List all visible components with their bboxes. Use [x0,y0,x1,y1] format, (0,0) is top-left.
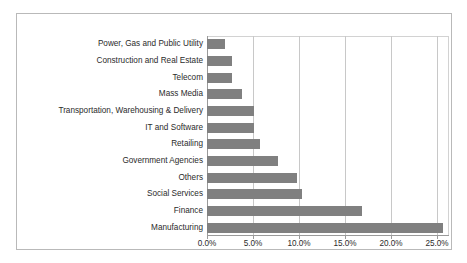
bar-row [207,136,449,153]
bar-row [207,53,449,70]
bar [207,173,297,183]
x-tick-label: 5.0% [244,239,263,248]
bar [207,206,362,216]
category-label: Mass Media [23,89,203,99]
bar [207,123,254,133]
x-tick-label: 25.0% [425,239,448,248]
category-label: Manufacturing [23,223,203,233]
category-label: Government Agencies [23,156,203,166]
category-label: IT and Software [23,123,203,133]
plot-area [207,36,449,236]
bar-row [207,219,449,236]
x-tick-label: 0.0% [198,239,217,248]
bar-row [207,119,449,136]
bar-row [207,103,449,120]
x-tick-label: 20.0% [379,239,402,248]
bar [207,56,232,66]
bar-row [207,86,449,103]
category-axis-labels: Power, Gas and Public UtilityConstructio… [21,36,203,236]
bar [207,223,443,233]
category-label: Others [23,173,203,183]
category-label: Power, Gas and Public Utility [23,39,203,49]
bar [207,139,260,149]
category-label: Social Services [23,189,203,199]
bar-row [207,203,449,220]
category-label: Retailing [23,139,203,149]
category-label: Transportation, Warehousing & Delivery [23,106,203,116]
bar [207,106,254,116]
bar [207,189,302,199]
x-tick-label: 15.0% [333,239,356,248]
bar-row [207,153,449,170]
bar-row [207,186,449,203]
x-axis-tick-labels: 0.0%5.0%10.0%15.0%20.0%25.0% [207,239,449,253]
chart-frame: Power, Gas and Public UtilityConstructio… [16,13,452,250]
bar [207,73,232,83]
bar [207,89,242,99]
chart-figure: Power, Gas and Public UtilityConstructio… [0,0,467,263]
bar-row [207,169,449,186]
bar [207,156,278,166]
category-label: Finance [23,206,203,216]
bar-row [207,36,449,53]
bar [207,39,225,49]
category-label: Construction and Real Estate [23,56,203,66]
category-label: Telecom [23,73,203,83]
x-tick-label: 10.0% [287,239,310,248]
bar-row [207,69,449,86]
